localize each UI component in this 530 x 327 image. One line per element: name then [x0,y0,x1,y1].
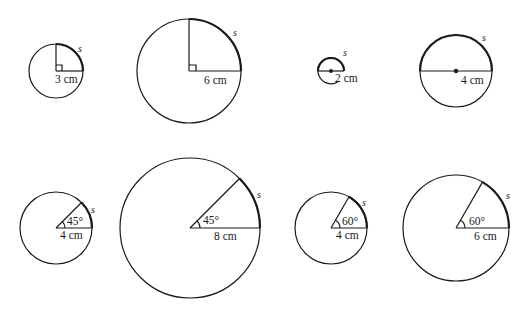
circle-3: s 2 cm [318,47,358,84]
arc-label: s [482,32,486,43]
measure-label: 6 cm [204,74,227,86]
arc-label: s [257,189,261,200]
right-angle-marker [56,65,62,71]
arc-label: s [78,43,82,54]
angle-label: 60° [469,215,486,227]
angle-arc-marker [336,220,341,228]
angle-arc-marker [62,222,65,228]
measure-label: 6 cm [474,230,497,242]
arc-label: s [91,204,95,215]
circle-4: s 4 cm [420,32,492,107]
circle-7: s 60° 4 cm [295,192,367,264]
measure-label: 4 cm [461,74,484,86]
center-dot [454,69,458,73]
measure-label: 8 cm [214,230,237,242]
circle-6: s 45° 8 cm [120,158,261,298]
angle-arc-marker [197,221,200,228]
angle-arc-marker [461,220,466,228]
arc-label: s [362,197,366,208]
circles-figure: s 3 cm s 6 cm s 2 cm s 4 cm s 45° [0,0,530,327]
arc-label: s [233,27,237,38]
measure-label: 4 cm [60,229,83,241]
circle-5: s 45° 4 cm [20,192,95,264]
circle-8: s 60° 6 cm [403,175,510,281]
arc-label: s [506,190,510,201]
arc-s [483,182,510,228]
right-angle-marker [189,65,196,71]
measure-label: 2 cm [335,72,358,84]
measure-label: 3 cm [55,73,78,85]
circle-2: s 6 cm [137,19,241,123]
measure-label: 4 cm [336,229,359,241]
angle-label: 45° [203,214,220,226]
angle-label: 45° [67,215,84,227]
arc-s [240,179,261,229]
center-dot [329,69,333,73]
arc-label: s [343,47,347,58]
angle-label: 60° [342,215,359,227]
circle-1: s 3 cm [29,43,83,98]
